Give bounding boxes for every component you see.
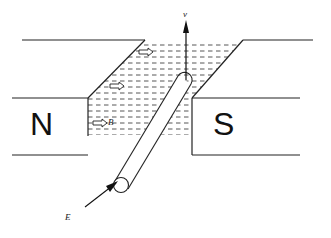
emf-label: E: [65, 213, 71, 222]
south-pole-label: S: [213, 108, 234, 140]
emf-arrow: [85, 181, 118, 207]
north-pole-label: N: [30, 108, 53, 140]
diagram-canvas: N S v B E: [0, 0, 331, 238]
field-label: B: [108, 118, 114, 127]
velocity-label: v: [183, 10, 187, 19]
